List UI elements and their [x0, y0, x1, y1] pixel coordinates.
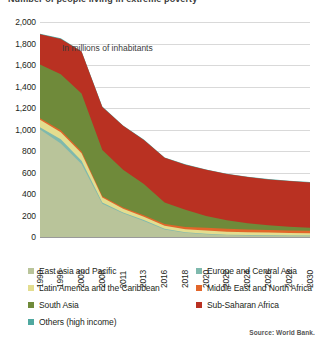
legend-label: East Asia and Pacific — [39, 266, 116, 276]
stacked-areas — [40, 22, 310, 237]
y-tick-label: 400 — [22, 189, 36, 199]
y-tick-label: 1,400 — [15, 82, 36, 92]
plot-area — [40, 22, 310, 237]
legend-label: Europe and Central Asia — [207, 266, 297, 276]
legend-item[interactable]: South Asia — [28, 300, 79, 310]
legend-label: Sub-Saharan Africa — [207, 300, 279, 310]
legend-swatch-icon — [196, 268, 202, 274]
source-note: Source: World Bank. — [249, 329, 315, 336]
y-tick-label: 200 — [22, 211, 36, 221]
legend-label: Latin America and the Caribbean — [39, 283, 160, 293]
legend-item[interactable]: Latin America and the Caribbean — [28, 283, 160, 293]
legend-label: Others (high income) — [39, 317, 116, 327]
y-tick-label: 0 — [31, 232, 36, 242]
legend-item[interactable]: Others (high income) — [28, 317, 116, 327]
legend-swatch-icon — [28, 268, 34, 274]
chart-legend: East Asia and PacificEurope and Central … — [0, 266, 323, 322]
area-svg — [40, 22, 310, 237]
legend-swatch-icon — [28, 285, 34, 291]
y-tick-label: 1,000 — [15, 125, 36, 135]
legend-item[interactable]: Europe and Central Asia — [196, 266, 297, 276]
legend-item[interactable]: East Asia and Pacific — [28, 266, 116, 276]
y-tick-label: 1,600 — [15, 60, 36, 70]
poverty-area-chart: Number of people living in extreme pover… — [0, 0, 323, 343]
y-axis: 2,0001,8001,6001,4001,2001,0008006004002… — [0, 22, 36, 237]
y-tick-label: 1,200 — [15, 103, 36, 113]
legend-item[interactable]: Sub-Saharan Africa — [196, 300, 279, 310]
legend-label: South Asia — [39, 300, 79, 310]
gridline-0 — [40, 237, 310, 238]
plot-wrapper: 2,0001,8001,6001,4001,2001,0008006004002… — [0, 14, 323, 246]
legend-label: Middle East and North Africa — [207, 283, 312, 293]
y-tick-label: 800 — [22, 146, 36, 156]
legend-swatch-icon — [28, 319, 34, 325]
y-tick-label: 1,800 — [15, 39, 36, 49]
legend-swatch-icon — [196, 285, 202, 291]
chart-title-strip: Number of people living in extreme pover… — [0, 0, 323, 5]
y-tick-label: 2,000 — [15, 17, 36, 27]
legend-swatch-icon — [28, 302, 34, 308]
y-tick-label: 600 — [22, 168, 36, 178]
chart-subtitle: In millions of inhabitants — [62, 43, 153, 53]
legend-item[interactable]: Middle East and North Africa — [196, 283, 312, 293]
legend-swatch-icon — [196, 302, 202, 308]
chart-title: Number of people living in extreme pover… — [0, 0, 323, 5]
